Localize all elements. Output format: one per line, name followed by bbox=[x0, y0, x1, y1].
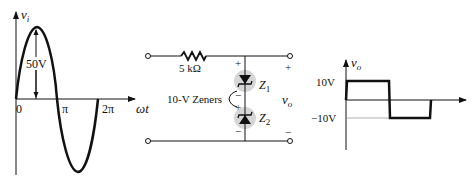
z2-label: Z2 bbox=[259, 111, 270, 127]
input-terminal-top[interactable] bbox=[146, 54, 151, 59]
output-terminal-bottom[interactable] bbox=[288, 139, 293, 144]
tick-2pi: 2π bbox=[102, 102, 114, 116]
output-minus: − bbox=[285, 126, 291, 138]
neg-level-label: −10V bbox=[311, 112, 336, 124]
zener-clipper-figure: vi ωt 50V 0 π 2π 5 kΩ bbox=[0, 0, 474, 187]
resistor-symbol bbox=[181, 52, 206, 60]
input-terminal-bottom[interactable] bbox=[146, 139, 151, 144]
input-y-label: vi bbox=[21, 7, 30, 24]
z1-minus: − bbox=[235, 89, 241, 101]
output-plus: + bbox=[285, 61, 291, 73]
zener-clipper-circuit: 5 kΩ + − + − Z1 Z2 10-V Zeners + bbox=[146, 52, 293, 144]
output-waveform-graph: vo 10V −10V bbox=[311, 55, 466, 150]
output-terminal-top[interactable] bbox=[288, 54, 293, 59]
zener-group-label: 10-V Zeners bbox=[167, 93, 222, 105]
tick-0: 0 bbox=[16, 102, 22, 116]
tick-pi: π bbox=[62, 102, 68, 116]
input-waveform-graph: vi ωt 50V 0 π 2π bbox=[16, 7, 149, 175]
z2-minus: − bbox=[235, 125, 241, 137]
resistor-label: 5 kΩ bbox=[179, 62, 201, 74]
input-x-label: ωt bbox=[136, 101, 149, 116]
z1-plus: + bbox=[235, 57, 241, 69]
amplitude-label: 50V bbox=[26, 57, 47, 71]
z1-label: Z1 bbox=[259, 78, 270, 94]
output-voltage-label: vo bbox=[282, 92, 293, 109]
pos-level-label: 10V bbox=[316, 76, 335, 88]
output-y-label: vo bbox=[351, 55, 362, 72]
